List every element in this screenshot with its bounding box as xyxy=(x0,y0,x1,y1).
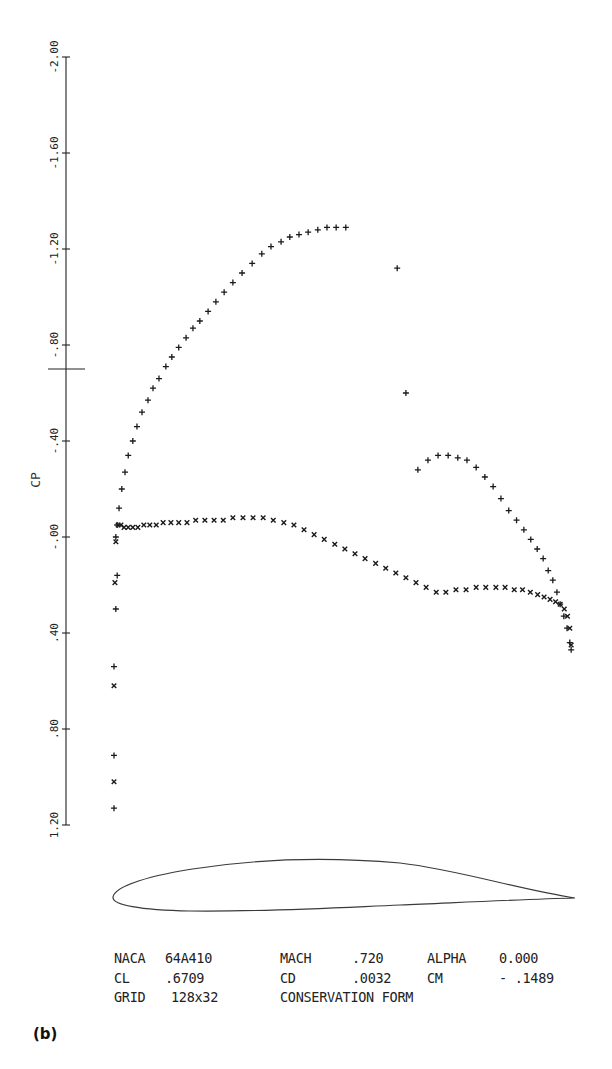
plus-marker xyxy=(394,265,400,271)
plus-marker xyxy=(150,385,156,391)
plus-marker xyxy=(130,438,136,444)
plus-marker xyxy=(425,457,431,463)
plus-marker xyxy=(435,452,441,458)
plus-marker xyxy=(521,527,527,533)
x-marker xyxy=(332,542,337,547)
x-marker xyxy=(113,580,118,585)
x-marker xyxy=(241,516,246,521)
plus-marker xyxy=(169,354,175,360)
plus-marker xyxy=(125,452,131,458)
x-marker xyxy=(126,525,131,530)
x-marker xyxy=(553,600,558,605)
x-marker xyxy=(271,518,276,523)
x-marker xyxy=(112,780,117,785)
plus-marker xyxy=(296,232,302,238)
x-marker xyxy=(548,597,553,602)
plus-marker xyxy=(221,289,227,295)
y-axis-label: CP xyxy=(28,472,43,488)
x-marker xyxy=(148,523,153,528)
info-row-3: GRID 128x32 CONSERVATION FORM xyxy=(114,988,145,1008)
x-marker xyxy=(483,585,488,590)
x-marker xyxy=(292,523,297,528)
plus-marker xyxy=(490,484,496,490)
plus-marker xyxy=(176,344,182,350)
plus-marker xyxy=(315,227,321,233)
x-marker xyxy=(353,552,358,557)
plus-marker xyxy=(545,568,551,574)
plus-marker xyxy=(116,505,122,511)
plus-marker xyxy=(197,318,203,324)
plus-marker xyxy=(415,467,421,473)
plus-marker xyxy=(113,606,119,612)
x-marker xyxy=(114,540,119,545)
y-tick-label: -2.00 xyxy=(48,40,61,73)
plus-marker xyxy=(498,496,504,502)
cd-label: CD xyxy=(280,969,296,989)
plus-marker xyxy=(550,577,556,583)
plus-marker xyxy=(111,752,117,758)
x-marker xyxy=(474,585,479,590)
plus-marker xyxy=(528,536,534,542)
x-marker xyxy=(562,607,567,612)
plus-marker xyxy=(305,229,311,235)
alpha-label: ALPHA xyxy=(427,949,466,969)
x-marker xyxy=(434,590,439,595)
x-marker xyxy=(343,547,348,552)
x-marker xyxy=(131,525,136,530)
x-marker xyxy=(383,566,388,571)
y-tick-label: -.00 xyxy=(48,524,61,551)
plus-marker xyxy=(333,224,339,230)
x-marker xyxy=(261,516,266,521)
grid-value: 128x32 xyxy=(171,988,218,1008)
plus-marker xyxy=(145,397,151,403)
y-tick-label: .80 xyxy=(48,719,61,739)
y-tick-label: -.80 xyxy=(48,332,61,359)
plus-marker xyxy=(111,664,117,670)
plus-marker xyxy=(134,424,140,430)
plus-marker xyxy=(268,244,274,250)
plus-marker xyxy=(473,464,479,470)
mach-value: .720 xyxy=(352,949,383,969)
plus-marker xyxy=(464,457,470,463)
x-marker xyxy=(161,520,166,525)
x-marker xyxy=(520,588,525,593)
plus-marker xyxy=(213,299,219,305)
plus-marker xyxy=(534,546,540,552)
plus-marker xyxy=(122,469,128,475)
plus-marker xyxy=(324,224,330,230)
x-marker xyxy=(231,516,236,521)
plus-marker xyxy=(554,589,560,595)
airfoil-label: NACA xyxy=(114,949,145,969)
cp-distribution-plot: -2.00-1.60-1.20-.80-.40-.00.40.801.20 CP xyxy=(0,0,612,940)
plus-marker xyxy=(287,234,293,240)
x-marker xyxy=(185,520,190,525)
x-marker xyxy=(169,520,174,525)
x-marker xyxy=(535,592,540,597)
x-marker xyxy=(373,561,378,566)
cm-label: CM xyxy=(427,969,443,989)
plus-marker xyxy=(205,308,211,314)
x-marker xyxy=(512,588,517,593)
plus-marker xyxy=(230,280,236,286)
plus-marker xyxy=(113,534,119,540)
plus-marker xyxy=(278,239,284,245)
y-axis: -2.00-1.60-1.20-.80-.40-.00.40.801.20 xyxy=(48,40,70,838)
plus-marker xyxy=(403,390,409,396)
x-marker xyxy=(404,576,409,581)
x-marker xyxy=(414,580,419,585)
y-tick-label: -.40 xyxy=(48,428,61,455)
x-marker xyxy=(363,556,368,561)
upper-surface-series xyxy=(111,224,574,811)
x-marker xyxy=(494,585,499,590)
plus-marker xyxy=(111,805,117,811)
run-parameters: NACA 64A410 MACH .720 ALPHA 0.000 CL .67… xyxy=(114,949,145,1008)
x-marker xyxy=(154,523,159,528)
x-marker xyxy=(282,520,287,525)
plus-marker xyxy=(514,517,520,523)
x-marker xyxy=(136,525,141,530)
x-marker xyxy=(424,585,429,590)
form-label: CONSERVATION FORM xyxy=(280,988,413,1008)
plus-marker xyxy=(114,572,120,578)
x-marker xyxy=(112,684,117,689)
x-marker xyxy=(193,518,198,523)
